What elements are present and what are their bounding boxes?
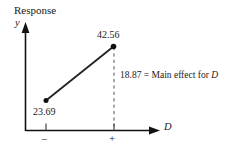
data-point-low	[44, 98, 49, 103]
x-axis-arrowhead	[149, 127, 160, 135]
y-axis-arrowhead	[22, 22, 30, 33]
data-label-low: 23.69	[33, 107, 56, 117]
main-effect-line	[46, 47, 114, 101]
main-effect-annotation: 18.87 = Main effect for D	[120, 71, 218, 81]
tick-label-minus: −	[41, 134, 47, 145]
main-effect-plot-figure: Response y D 42.56 23.69 18.87 = Main ef…	[0, 0, 238, 157]
effect-equals: =	[144, 70, 149, 80]
effect-factor: D	[211, 70, 218, 80]
tick-label-plus: +	[109, 133, 115, 144]
effect-description: Main effect for	[151, 70, 208, 80]
data-point-high	[111, 44, 117, 50]
y-axis-variable-label: y	[15, 18, 20, 29]
effect-value: 18.87	[120, 70, 141, 80]
y-axis-title: Response	[14, 5, 56, 16]
x-axis-variable-label: D	[164, 122, 172, 133]
data-label-high: 42.56	[97, 30, 120, 40]
